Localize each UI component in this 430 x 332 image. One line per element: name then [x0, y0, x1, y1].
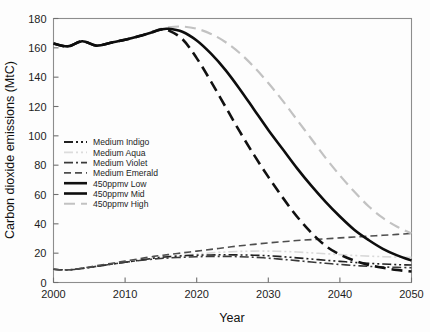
- emissions-chart-figure: 200020102020203020402050 020406080100120…: [0, 0, 430, 332]
- legend-label-medium-violet: Medium Violet: [93, 158, 148, 168]
- y-tick-label: 0: [40, 277, 46, 289]
- y-tick-label: 40: [34, 218, 46, 230]
- x-axis-title: Year: [219, 311, 244, 325]
- legend-label-450ppmv-mid: 450ppmv Mid: [93, 189, 145, 199]
- x-tick-label: 2010: [113, 288, 137, 300]
- chart-canvas: 200020102020203020402050 020406080100120…: [0, 0, 430, 332]
- y-tick-label: 180: [28, 13, 46, 25]
- legend-label-medium-aqua: Medium Aqua: [93, 148, 146, 158]
- y-tick-label: 140: [28, 71, 46, 83]
- y-axis-tick-labels: 020406080100120140160180: [28, 13, 46, 289]
- legend-label-medium-emerald: Medium Emerald: [93, 168, 158, 178]
- y-axis-ticks: [54, 19, 59, 283]
- x-axis-ticks: [54, 278, 412, 283]
- series-line-medium-aqua: [54, 251, 412, 270]
- y-tick-label: 80: [34, 159, 46, 171]
- x-tick-label: 2020: [184, 288, 208, 300]
- y-tick-label: 120: [28, 101, 46, 113]
- legend-label-450ppmv-high: 450ppmv High: [93, 199, 149, 209]
- x-tick-label: 2050: [399, 288, 423, 300]
- series-line-medium-violet: [54, 256, 412, 270]
- y-axis-title: Carbon dioxide emissions (MtC): [3, 61, 17, 239]
- y-tick-label: 100: [28, 130, 46, 142]
- x-tick-label: 2030: [256, 288, 280, 300]
- series-line-medium-indigo: [54, 255, 412, 270]
- chart-legend: Medium IndigoMedium AquaMedium VioletMed…: [64, 137, 158, 209]
- y-tick-label: 160: [28, 42, 46, 54]
- x-tick-label: 2000: [41, 288, 65, 300]
- y-tick-label: 60: [34, 189, 46, 201]
- legend-label-450ppmv-low: 450ppmv Low: [93, 179, 147, 189]
- x-axis-tick-labels: 200020102020203020402050: [41, 288, 423, 300]
- legend-label-medium-indigo: Medium Indigo: [93, 137, 150, 147]
- y-tick-label: 20: [34, 247, 46, 259]
- x-tick-label: 2040: [328, 288, 352, 300]
